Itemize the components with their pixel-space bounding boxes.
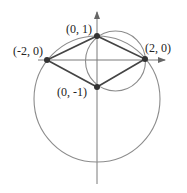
point-top [94, 33, 100, 39]
diagram-svg: (-2, 0) (0, 1) (2, 0) (0, -1) [0, 0, 187, 193]
point-right [142, 56, 148, 62]
point-left [44, 57, 50, 63]
label-top: (0, 1) [66, 22, 92, 36]
label-right: (2, 0) [145, 41, 171, 55]
label-bottom: (0, -1) [57, 85, 87, 99]
rhombus [47, 36, 145, 87]
label-left: (-2, 0) [13, 44, 43, 58]
diagram-canvas: (-2, 0) (0, 1) (2, 0) (0, -1) [0, 0, 187, 193]
small-circle [86, 31, 146, 91]
point-bottom [94, 84, 100, 90]
